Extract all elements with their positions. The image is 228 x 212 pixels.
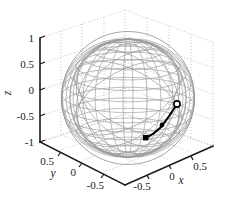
trajectory-end-marker xyxy=(143,135,148,140)
trajectory-mid-marker xyxy=(160,123,165,128)
y-tick-label-0_5: 0.5 xyxy=(40,155,54,167)
figure-3d-sphere-plot: 1 0.5 0 -0.5 -1 z 0.5 0 -0.5 y -0.5 0 0.… xyxy=(0,0,228,212)
y-tick-label-neg0_5: -0.5 xyxy=(87,179,105,191)
x-tick-label-neg0_5: -0.5 xyxy=(133,180,151,192)
trajectory-start-marker xyxy=(174,101,180,107)
x-axis-label: x xyxy=(177,174,184,186)
plot-canvas: 1 0.5 0 -0.5 -1 z 0.5 0 -0.5 y -0.5 0 0.… xyxy=(0,0,228,212)
y-axis-ticks xyxy=(58,152,104,178)
grid-wall-right xyxy=(125,10,213,146)
z-tick-label-1: 1 xyxy=(29,32,35,44)
z-tick-label-0_5: 0.5 xyxy=(20,58,34,70)
x-tick-label-0: 0 xyxy=(169,170,175,182)
z-axis-label: z xyxy=(1,90,13,96)
x-tick-label-0_5: 0.5 xyxy=(193,160,207,172)
z-tick-label-0: 0 xyxy=(29,84,35,96)
z-tick-label-neg1: -1 xyxy=(25,136,34,148)
y-axis-label: y xyxy=(49,167,56,180)
y-tick-label-0: 0 xyxy=(71,166,77,178)
z-tick-label-neg0_5: -0.5 xyxy=(17,110,35,122)
